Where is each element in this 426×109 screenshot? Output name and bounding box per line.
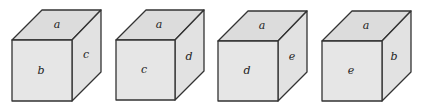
cube-4-right-label: b [390,50,397,63]
cube-1-front-label: b [37,64,44,77]
cube-4-front-label: e [348,64,355,77]
cube-2-top-label: a [156,18,163,31]
cube-3-right-label: e [289,50,296,63]
cube-2: a c d [116,10,204,100]
cube-3-top-label: a [259,19,266,32]
cube-1-right-label: c [83,48,89,61]
cube-1: a b c [12,10,101,101]
cube-4: a e b [322,11,411,101]
cube-2-front-label: c [141,63,147,76]
cube-1-top-label: a [54,18,61,31]
cube-3-front-label: d [243,64,250,77]
cube-3: a d e [218,11,307,101]
cube-2-right-label: d [185,50,192,63]
cube-4-top-label: a [363,19,370,32]
cube-views-diagram: a b c a c d a d e a e b [0,0,426,109]
